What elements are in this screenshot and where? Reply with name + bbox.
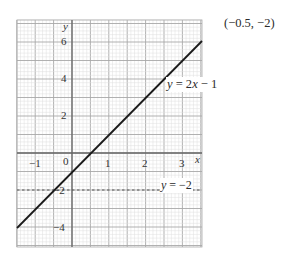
- tick-label-y-2: 2: [61, 109, 67, 121]
- tick-label-x-0: 0: [63, 155, 69, 167]
- graph-plot: −1 0 1 2 3 x y 6 4 2 −2 −4: [0, 0, 285, 253]
- eq1-tail: − 1: [198, 77, 218, 91]
- tick-label-y-minus-2: −2: [53, 184, 65, 196]
- axis-label-x: x: [194, 153, 200, 165]
- eq2-rest: = −2: [166, 178, 192, 192]
- tick-label-x-1: 1: [105, 157, 111, 169]
- tick-label-x-3: 3: [179, 157, 185, 169]
- tick-label-y-6: 6: [61, 35, 67, 47]
- eq1-mid: = 2: [173, 77, 193, 91]
- tick-label-x-2: 2: [142, 157, 148, 169]
- tick-label-x-minus-1: −1: [29, 157, 41, 169]
- intersection-point-label: (−0.5, −2): [224, 16, 275, 31]
- equation-label-line: y = 2x − 1: [166, 77, 218, 92]
- tick-label-y-4: 4: [61, 72, 67, 84]
- tick-label-y-minus-4: −4: [53, 221, 65, 233]
- equation-label-dashed: y = −2: [160, 178, 193, 193]
- axis-label-y: y: [62, 20, 68, 32]
